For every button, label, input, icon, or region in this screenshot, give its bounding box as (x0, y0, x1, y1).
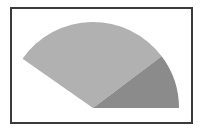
sector-diagram (0, 0, 201, 135)
